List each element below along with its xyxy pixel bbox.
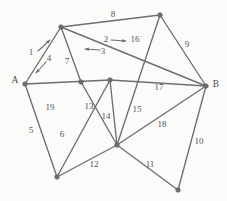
graph-edge xyxy=(160,15,206,86)
edge-label-11: 11 xyxy=(146,159,155,169)
graph-node-bottom_center xyxy=(115,143,120,148)
graph-diagram: 14237891617519613141512181110 AB xyxy=(0,0,227,201)
edge-label-5: 5 xyxy=(29,125,34,135)
graph-edge xyxy=(25,80,110,84)
edge-label-10: 10 xyxy=(195,136,205,146)
graph-edge xyxy=(61,27,81,82)
edge-label-12: 12 xyxy=(90,159,99,169)
node-label-b: B xyxy=(213,79,219,89)
graph-node-a xyxy=(23,82,28,87)
graph-node-top_left xyxy=(59,25,64,30)
direction-arrow-icon xyxy=(85,48,100,51)
node-label-a: A xyxy=(12,75,19,85)
node-labels-layer: AB xyxy=(12,75,220,89)
direction-arrow-icon xyxy=(111,39,126,42)
edge-label-2: 2 xyxy=(104,34,109,44)
edge-label-14: 14 xyxy=(102,111,112,121)
edge-label-9: 9 xyxy=(185,39,190,49)
edge-label-8: 8 xyxy=(111,9,116,19)
graph-node-center xyxy=(108,78,113,83)
edge-label-13: 13 xyxy=(85,101,95,111)
graph-node-mid_left xyxy=(79,80,84,85)
edge-label-16: 16 xyxy=(131,34,141,44)
edge-label-6: 6 xyxy=(60,129,65,139)
edge-label-15: 15 xyxy=(133,104,143,114)
edge-label-17: 17 xyxy=(155,82,165,92)
graph-node-b xyxy=(204,84,209,89)
edge-label-18: 18 xyxy=(158,119,168,129)
edge-label-7: 7 xyxy=(65,56,70,66)
graph-node-bottom_left xyxy=(55,175,60,180)
graph-canvas: 14237891617519613141512181110 AB xyxy=(0,0,227,201)
edge-label-3: 3 xyxy=(101,46,106,56)
edge-label-4: 4 xyxy=(47,53,52,63)
edge-label-19: 19 xyxy=(46,102,56,112)
graph-node-bottom_right xyxy=(176,188,181,193)
edge-label-1: 1 xyxy=(29,47,34,57)
graph-node-top_right xyxy=(158,13,163,18)
direction-arrow-icon xyxy=(38,40,50,51)
